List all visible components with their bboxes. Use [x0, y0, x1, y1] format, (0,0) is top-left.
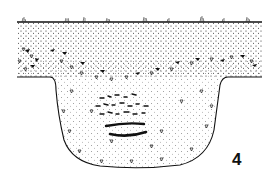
pit-fill — [17, 60, 262, 168]
figure-number: 4 — [232, 150, 241, 170]
ground-surface — [17, 16, 262, 22]
